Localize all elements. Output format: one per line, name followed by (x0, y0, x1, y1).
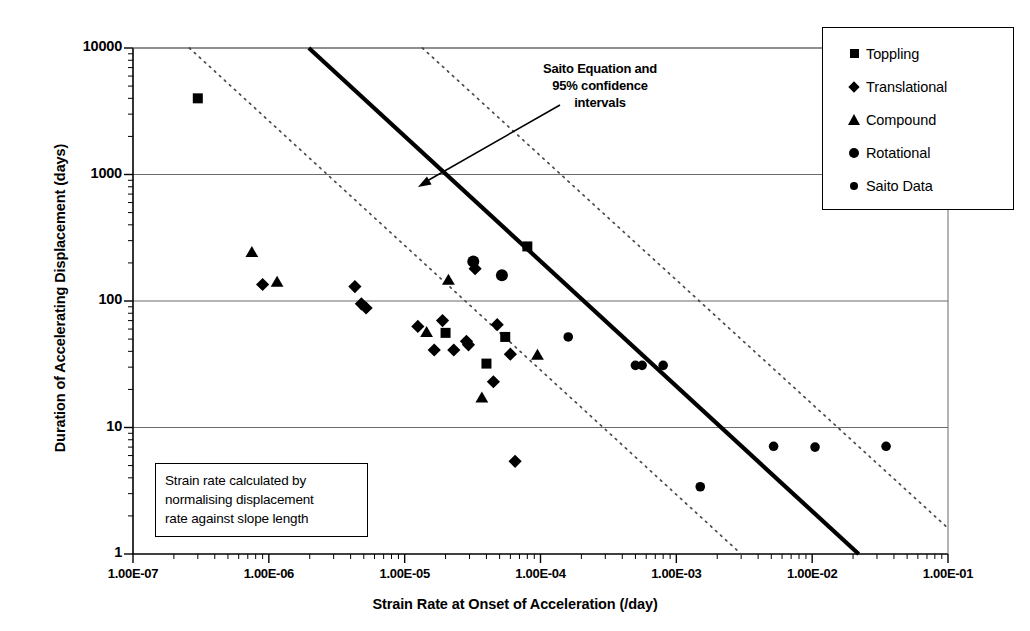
x-tick-label: 1.00E-02 (757, 566, 867, 581)
series-saito-data (563, 332, 890, 491)
circle-marker-icon (845, 148, 863, 158)
annotation-line-3: intervals (495, 94, 705, 111)
data-point-marker (500, 332, 510, 342)
annotation-line-1: Saito Equation and (495, 60, 705, 77)
annotation-leader-line (427, 105, 560, 181)
data-point-marker (658, 361, 668, 371)
small-circle-marker-icon (845, 182, 863, 190)
data-point-marker (436, 314, 449, 327)
data-point-marker (810, 442, 820, 452)
x-tick-label: 1.00E-07 (78, 566, 188, 581)
saito-equation-annotation: Saito Equation and 95% confidence interv… (495, 60, 705, 111)
method-note-box: Strain rate calculated by normalising di… (155, 463, 368, 537)
data-point-marker (491, 318, 504, 331)
x-tick-label: 1.00E-01 (893, 566, 1003, 581)
annotation-arrowhead (418, 177, 432, 187)
data-point-marker (467, 256, 479, 268)
legend-item-label: Compound (866, 112, 936, 128)
data-point-marker (193, 93, 203, 103)
legend-item-saito-data: Saito Data (845, 169, 1013, 202)
diamond-marker-icon (845, 83, 863, 91)
data-point-marker (475, 392, 488, 403)
data-point-marker (504, 348, 517, 361)
legend-item-label: Saito Data (866, 178, 933, 194)
data-point-marker (441, 328, 451, 338)
data-point-marker (428, 343, 441, 356)
data-point-marker (411, 320, 424, 333)
y-tick-label: 10 (30, 418, 122, 434)
note-line-1: Strain rate calculated by (165, 471, 358, 490)
data-point-marker (487, 375, 500, 388)
annotation-line-2: 95% confidence (495, 77, 705, 94)
legend-item-label: Rotational (866, 145, 930, 161)
chart-legend: TopplingTranslationalCompoundRotationalS… (822, 27, 1014, 210)
data-point-marker (348, 280, 361, 293)
data-point-marker (245, 246, 258, 257)
x-tick-label: 1.00E-06 (214, 566, 324, 581)
legend-item-label: Translational (866, 79, 947, 95)
legend-item-rotational: Rotational (845, 136, 1013, 169)
square-marker-icon (845, 49, 863, 58)
y-tick-label: 100 (30, 291, 122, 307)
legend-item-translational: Translational (845, 70, 1013, 103)
data-point-marker (637, 361, 647, 371)
triangle-marker-icon (845, 114, 863, 125)
y-tick-label: 1000 (30, 165, 122, 181)
data-point-marker (769, 442, 779, 452)
x-tick-label: 1.00E-03 (621, 566, 731, 581)
data-point-marker (563, 332, 573, 342)
y-tick-label: 1 (30, 544, 122, 560)
x-axis-title: Strain Rate at Onset of Acceleration (/d… (0, 596, 1030, 612)
data-point-marker (271, 276, 284, 287)
data-point-marker (256, 278, 269, 291)
data-point-marker (531, 349, 544, 360)
data-point-marker (522, 241, 532, 251)
data-point-marker (481, 359, 491, 369)
data-point-marker (695, 482, 705, 492)
legend-item-compound: Compound (845, 103, 1013, 136)
data-point-marker (442, 274, 455, 285)
series-toppling (193, 93, 533, 368)
note-line-2: normalising displacement (165, 490, 358, 509)
data-point-marker (447, 343, 460, 356)
chart-container: 110100100010000 1.00E-071.00E-061.00E-05… (0, 0, 1030, 631)
data-point-marker (508, 455, 521, 468)
note-line-3: rate against slope length (165, 509, 358, 528)
y-tick-label: 10000 (30, 38, 122, 54)
data-point-marker (496, 269, 508, 281)
legend-item-toppling: Toppling (845, 37, 1013, 70)
y-axis-title: Duration of Accelerating Displacement (d… (52, 38, 68, 558)
data-point-marker (881, 442, 891, 452)
x-tick-label: 1.00E-04 (486, 566, 596, 581)
x-tick-label: 1.00E-05 (350, 566, 460, 581)
legend-item-label: Toppling (866, 46, 919, 62)
